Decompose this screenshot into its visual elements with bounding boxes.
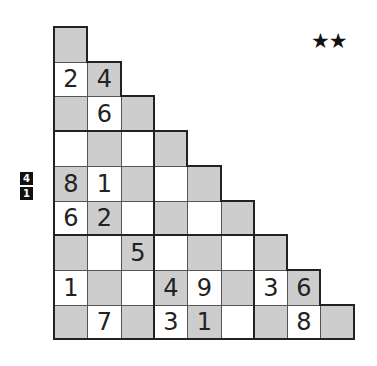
- grid-outline: [286, 234, 288, 271]
- grid-cell[interactable]: [121, 96, 155, 132]
- grid-cell[interactable]: 3: [254, 270, 288, 306]
- box-divider: [53, 130, 155, 132]
- grid-cell[interactable]: 1: [187, 305, 222, 340]
- grid-cell[interactable]: [221, 305, 255, 340]
- grid-cell[interactable]: [87, 270, 122, 306]
- grid-outline: [220, 165, 222, 202]
- grid-cell[interactable]: [121, 166, 155, 202]
- grid-cell[interactable]: [221, 235, 255, 271]
- grid-cell[interactable]: [254, 235, 288, 271]
- grid-cell[interactable]: 2: [87, 201, 122, 236]
- grid-cell[interactable]: [54, 27, 88, 63]
- grid-cell[interactable]: [187, 166, 222, 202]
- grid-cell[interactable]: [54, 131, 88, 167]
- grid-cell[interactable]: [54, 305, 88, 340]
- grid-cell[interactable]: [154, 235, 188, 271]
- grid-cell[interactable]: [154, 131, 188, 167]
- grid-cell[interactable]: 8: [287, 305, 321, 340]
- grid-cell[interactable]: [221, 270, 255, 306]
- grid-outline: [319, 269, 321, 306]
- grid-outline: [319, 304, 355, 306]
- grid-cell[interactable]: [254, 305, 288, 340]
- grid-cell[interactable]: 2: [54, 62, 88, 97]
- grid-outline: [120, 61, 122, 97]
- grid-cell[interactable]: [121, 201, 155, 236]
- grid-cell[interactable]: [221, 201, 255, 236]
- grid-outline: [353, 304, 355, 340]
- grid-cell[interactable]: 3: [154, 305, 188, 340]
- grid-cell[interactable]: [320, 305, 355, 340]
- grid-cell[interactable]: [121, 131, 155, 167]
- box-divider: [253, 234, 255, 340]
- staircase-sudoku-grid: 24681625149367318: [0, 0, 377, 366]
- grid-outline: [253, 234, 288, 236]
- grid-cell[interactable]: [187, 235, 222, 271]
- grid-cell[interactable]: 6: [287, 270, 321, 306]
- grid-outline: [53, 26, 55, 340]
- box-divider: [153, 130, 155, 340]
- grid-cell[interactable]: [154, 201, 188, 236]
- grid-cell[interactable]: 1: [87, 166, 122, 202]
- grid-cell[interactable]: 6: [54, 201, 88, 236]
- grid-cell[interactable]: 4: [87, 62, 122, 97]
- grid-outline: [53, 338, 355, 340]
- grid-cell[interactable]: 5: [121, 235, 155, 271]
- grid-cell[interactable]: [54, 96, 88, 132]
- grid-cell[interactable]: 9: [187, 270, 222, 306]
- grid-outline: [220, 200, 255, 202]
- grid-outline: [53, 26, 88, 28]
- grid-outline: [153, 95, 155, 132]
- grid-cell[interactable]: [121, 305, 155, 340]
- grid-cell[interactable]: 6: [87, 96, 122, 132]
- grid-outline: [186, 165, 222, 167]
- grid-outline: [186, 130, 188, 167]
- grid-outline: [120, 95, 155, 97]
- grid-outline: [153, 130, 188, 132]
- grid-cell[interactable]: 1: [54, 270, 88, 306]
- grid-cell[interactable]: [154, 166, 188, 202]
- grid-cell[interactable]: [121, 270, 155, 306]
- grid-cell[interactable]: 4: [154, 270, 188, 306]
- grid-cell[interactable]: [87, 131, 122, 167]
- grid-outline: [86, 26, 88, 63]
- grid-cell[interactable]: [54, 235, 88, 271]
- grid-cell[interactable]: 7: [87, 305, 122, 340]
- grid-outline: [253, 200, 255, 236]
- grid-cell[interactable]: [187, 201, 222, 236]
- grid-cell[interactable]: [87, 235, 122, 271]
- grid-cell[interactable]: 8: [54, 166, 88, 202]
- grid-outline: [286, 269, 321, 271]
- grid-outline: [86, 61, 122, 63]
